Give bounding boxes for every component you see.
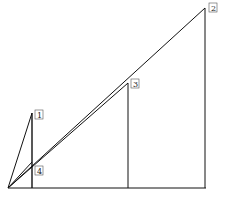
label-3-text: 3	[133, 80, 138, 89]
hypotenuse-2	[8, 8, 205, 188]
hypotenuse-4	[8, 162, 32, 188]
label-2: 2	[209, 3, 217, 13]
label-4-text: 4	[37, 167, 42, 176]
label-1: 1	[35, 110, 43, 120]
label-3: 3	[131, 79, 139, 89]
label-2-text: 2	[211, 4, 216, 13]
label-4: 4	[35, 166, 43, 176]
hypotenuse-3	[8, 83, 128, 188]
label-1-text: 1	[37, 111, 42, 120]
similar-triangles-diagram: 1 2 3 4	[0, 0, 226, 197]
